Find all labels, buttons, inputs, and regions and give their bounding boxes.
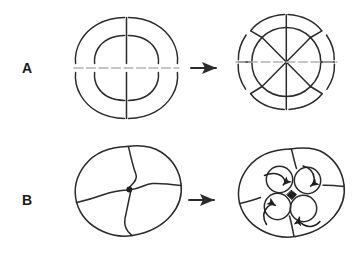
- rotation-arrow-lower-left: [264, 205, 276, 225]
- embryo-spiral-eight-cell: [239, 148, 345, 237]
- micromere-upper-right: [294, 167, 320, 193]
- micromere-upper-left: [266, 166, 292, 192]
- row-label-a: A: [22, 61, 33, 75]
- figure-canvas: [0, 0, 360, 269]
- embryo-spiral-four-cell: [75, 146, 181, 236]
- micromere-lower-right: [290, 195, 316, 221]
- row-label-b: B: [22, 193, 33, 207]
- cleavage-comparison-figure: A B: [0, 0, 360, 269]
